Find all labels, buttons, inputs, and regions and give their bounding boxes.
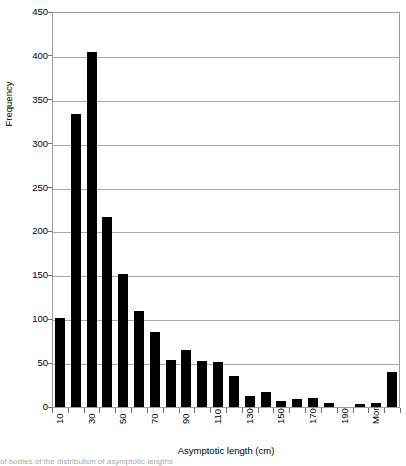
gridline bbox=[53, 364, 399, 365]
x-axis-tick bbox=[194, 408, 195, 413]
x-axis-tick-label: 70 bbox=[150, 413, 160, 424]
x-axis-title: Asymptotic length (cm) bbox=[52, 444, 400, 458]
x-axis-tick bbox=[400, 408, 401, 413]
y-axis-tick-label: 250 bbox=[2, 182, 48, 194]
y-axis-tick-label: 100 bbox=[2, 313, 48, 325]
plot-area bbox=[52, 12, 400, 408]
x-axis-tick-label: 130 bbox=[245, 408, 255, 424]
y-axis-tick-labels: 050100150200250300350400450 bbox=[0, 12, 48, 408]
gridline bbox=[53, 101, 399, 102]
y-axis-tick-label: 150 bbox=[2, 269, 48, 281]
x-axis-tick bbox=[368, 408, 369, 413]
x-axis-tick bbox=[115, 408, 116, 413]
gridline bbox=[53, 232, 399, 233]
x-axis-tick-label: 110 bbox=[213, 409, 223, 424]
y-axis-tick-label: 350 bbox=[2, 94, 48, 106]
gridline bbox=[53, 145, 399, 146]
x-axis-tick bbox=[99, 408, 100, 413]
x-axis-tick bbox=[210, 408, 211, 413]
x-axis-tick bbox=[305, 408, 306, 413]
x-axis-tick bbox=[337, 408, 338, 413]
x-axis-tick bbox=[353, 408, 354, 413]
x-axis-tick-label: 50 bbox=[118, 413, 128, 424]
y-axis-tick-label: 450 bbox=[2, 6, 48, 18]
gridline bbox=[53, 320, 399, 321]
x-axis-tick-label: 30 bbox=[87, 413, 97, 424]
x-axis-tick bbox=[131, 408, 132, 413]
x-axis-tick bbox=[226, 408, 227, 413]
x-axis-tick-label: 10 bbox=[55, 413, 65, 424]
x-axis-tick bbox=[321, 408, 322, 413]
x-axis-tick bbox=[84, 408, 85, 413]
x-axis-tick-labels: 1030507090110130150170190More bbox=[52, 414, 400, 446]
gridline bbox=[53, 57, 399, 58]
gridline bbox=[53, 276, 399, 277]
x-axis-tick-label: 90 bbox=[181, 413, 191, 424]
x-axis-tick bbox=[52, 408, 53, 413]
x-axis-tick-label: 150 bbox=[276, 408, 286, 424]
x-axis-tick bbox=[258, 408, 259, 413]
x-axis-tick bbox=[289, 408, 290, 413]
x-axis-tick bbox=[384, 408, 385, 413]
y-axis-tick-label: 300 bbox=[2, 138, 48, 150]
gridline bbox=[53, 189, 399, 190]
y-axis-tick-label: 50 bbox=[2, 357, 48, 369]
x-axis-tick-label: 190 bbox=[340, 408, 350, 424]
y-axis-tick-label: 200 bbox=[2, 225, 48, 237]
x-axis-tick-label: More bbox=[371, 402, 381, 424]
x-axis-tick bbox=[242, 408, 243, 413]
x-axis-tick bbox=[147, 408, 148, 413]
figure-caption: of bodies of the distribution of asympto… bbox=[0, 457, 406, 466]
x-axis-tick-label: 170 bbox=[308, 408, 318, 424]
x-axis-tick bbox=[163, 408, 164, 413]
y-axis-tick-label: 400 bbox=[2, 50, 48, 62]
x-axis-tick bbox=[273, 408, 274, 413]
y-axis-tick-label: 0 bbox=[2, 401, 48, 413]
x-axis-tick bbox=[68, 408, 69, 413]
x-axis-tick bbox=[179, 408, 180, 413]
